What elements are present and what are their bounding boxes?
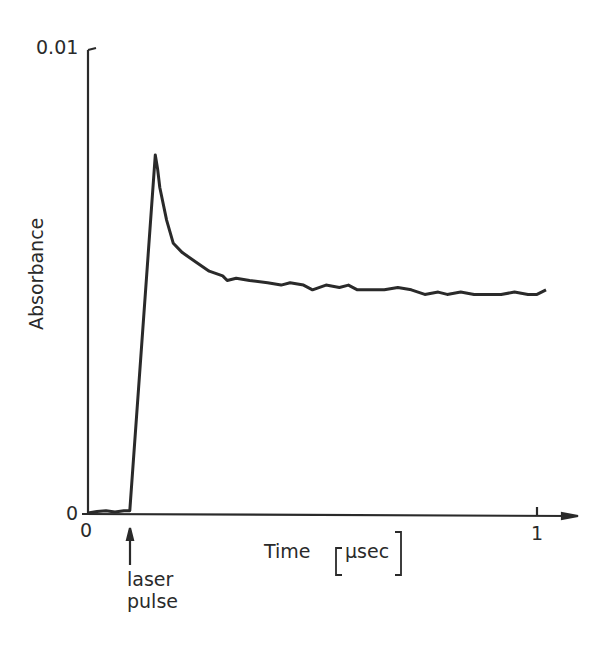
bracket-right xyxy=(395,532,401,575)
x-tick-label-zero: 0 xyxy=(80,519,92,541)
annotation-pulse: pulse xyxy=(127,590,178,612)
x-tick-label-one: 1 xyxy=(531,522,543,544)
bracket-left xyxy=(336,548,342,575)
x-axis xyxy=(82,514,570,516)
laser-pulse-arrow-icon xyxy=(127,528,133,540)
y-tick-label-zero: 0 xyxy=(66,502,78,524)
axes xyxy=(82,48,578,575)
y-axis-top-tick xyxy=(88,48,96,50)
x-axis-title: Time xyxy=(264,540,311,562)
y-axis-title: Absorbance xyxy=(25,218,47,330)
y-tick-label-top: 0.01 xyxy=(36,36,78,58)
x-axis-unit: µsec xyxy=(345,540,389,562)
annotation-laser: laser xyxy=(127,568,173,590)
x-axis-arrow-icon xyxy=(562,513,578,519)
data-trace xyxy=(88,155,546,513)
